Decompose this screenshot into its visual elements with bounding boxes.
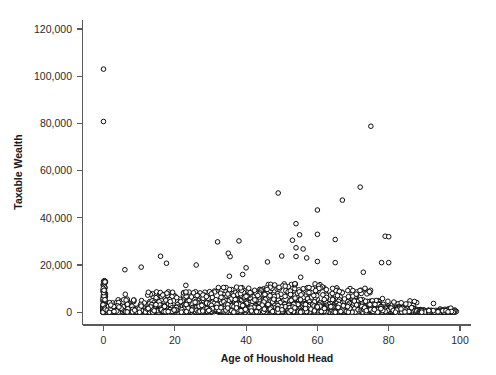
data-point xyxy=(303,306,308,311)
data-point xyxy=(386,260,391,265)
x-axis-title: Age of Houshold Head xyxy=(221,352,334,364)
x-tick-label: 100 xyxy=(451,334,469,346)
data-point xyxy=(237,239,242,244)
data-point xyxy=(373,302,378,307)
data-point xyxy=(337,289,342,294)
x-tick-label: 80 xyxy=(383,334,395,346)
data-point xyxy=(380,296,385,301)
data-point xyxy=(172,308,177,313)
data-point xyxy=(189,308,194,313)
data-point xyxy=(178,299,183,304)
data-point xyxy=(340,198,345,203)
data-point xyxy=(194,263,199,268)
y-tick-label: 40,000 xyxy=(40,212,72,224)
data-point xyxy=(350,288,355,293)
data-point xyxy=(255,293,260,298)
data-point xyxy=(333,260,338,265)
data-point xyxy=(312,309,317,314)
data-point xyxy=(184,302,189,307)
data-point xyxy=(233,297,238,302)
data-point xyxy=(315,232,320,237)
y-axis-title: Taxable Wealth xyxy=(12,134,24,209)
data-point xyxy=(166,309,171,314)
data-point xyxy=(154,302,159,307)
data-point xyxy=(184,283,189,288)
data-point xyxy=(358,288,363,293)
data-point xyxy=(379,306,384,311)
data-point xyxy=(184,290,189,295)
data-point xyxy=(322,297,327,302)
data-point xyxy=(131,298,136,303)
scatter-plot-figure: 120,000 100,000 80,000 60,000 40,000 20,… xyxy=(0,0,496,375)
data-point xyxy=(293,281,298,286)
data-point xyxy=(265,287,270,292)
data-point xyxy=(280,307,285,312)
data-point xyxy=(226,292,231,297)
data-point xyxy=(193,300,198,305)
data-point xyxy=(240,303,245,308)
data-point xyxy=(427,308,432,313)
data-point xyxy=(254,309,259,314)
data-point xyxy=(298,275,303,280)
data-point xyxy=(189,295,194,300)
data-point xyxy=(399,300,404,305)
data-point xyxy=(307,290,312,295)
x-tick-label: 0 xyxy=(101,334,107,346)
data-point xyxy=(446,310,451,315)
data-point xyxy=(204,294,209,299)
data-point xyxy=(244,294,249,299)
data-point xyxy=(298,310,303,315)
data-point xyxy=(221,285,226,290)
data-point xyxy=(358,185,363,190)
data-point xyxy=(125,302,130,307)
data-point xyxy=(152,308,157,313)
data-point xyxy=(312,293,317,298)
data-point xyxy=(322,306,327,311)
data-point xyxy=(200,309,205,314)
plot-canvas: 120,000 100,000 80,000 60,000 40,000 20,… xyxy=(0,0,496,375)
data-point xyxy=(307,285,312,290)
data-point xyxy=(345,304,350,309)
data-point xyxy=(294,254,299,259)
data-point xyxy=(363,299,368,304)
data-point xyxy=(345,288,350,293)
data-point xyxy=(279,254,284,259)
data-point xyxy=(294,221,299,226)
y-tick-label: 0 xyxy=(66,306,72,318)
data-point xyxy=(170,290,175,295)
data-point xyxy=(103,280,108,285)
data-point xyxy=(240,272,245,277)
y-tick-label: 20,000 xyxy=(40,259,72,271)
data-point xyxy=(137,310,142,315)
data-point xyxy=(298,297,303,302)
data-point xyxy=(367,289,372,294)
data-point xyxy=(268,293,273,298)
data-point xyxy=(225,306,230,311)
data-point xyxy=(139,304,144,309)
data-point xyxy=(109,303,114,308)
data-point xyxy=(219,295,224,300)
x-tick-label: 40 xyxy=(240,334,252,346)
data-point xyxy=(139,265,144,270)
data-point xyxy=(364,308,369,313)
y-tick-label: 60,000 xyxy=(40,164,72,176)
data-point xyxy=(330,286,335,291)
data-point xyxy=(226,251,231,256)
data-point xyxy=(162,304,167,309)
data-point xyxy=(379,260,384,265)
x-tick-label: 20 xyxy=(169,334,181,346)
data-point xyxy=(219,305,224,310)
data-point xyxy=(330,297,335,302)
data-point xyxy=(324,287,329,292)
data-point xyxy=(215,240,220,245)
data-point xyxy=(372,307,377,312)
data-point xyxy=(283,294,288,299)
data-point xyxy=(329,304,334,309)
data-point xyxy=(164,261,169,266)
data-point xyxy=(184,309,189,314)
data-point xyxy=(103,297,108,302)
data-point xyxy=(313,288,318,293)
data-point xyxy=(123,292,128,297)
data-point xyxy=(227,274,232,279)
data-point xyxy=(195,293,200,298)
